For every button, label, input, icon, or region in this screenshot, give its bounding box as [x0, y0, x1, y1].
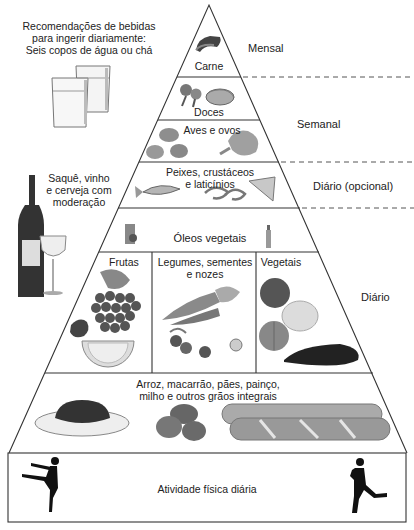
- tier-label-peixes-line-1: Peixes, crustáceos: [160, 166, 260, 178]
- tier-label-peixes: Peixes, crustáceos e laticínios: [160, 166, 260, 190]
- alcohol-note-line-1: Saquê, vinho: [40, 172, 118, 184]
- carrot-icon: [162, 286, 240, 325]
- alcohol-note: Saquê, vinho e cerveja com moderação: [40, 172, 118, 208]
- tier-label-vegetais: Vegetais: [258, 256, 304, 268]
- grapes-icon: [91, 269, 141, 333]
- candy-icon: [206, 89, 234, 105]
- water-glasses-icon: [52, 66, 110, 127]
- tier-label-frutas: Frutas: [104, 256, 144, 268]
- tier-label-aves: Aves e ovos: [174, 124, 250, 136]
- tier-label-graos-line-2: milho e outros grãos integrais: [128, 390, 288, 402]
- tier-label-atividade: Atividade física diária: [137, 483, 277, 495]
- tomato-icon: [260, 278, 290, 308]
- baguette-icon: [222, 404, 390, 440]
- tier-label-legumes-line-2: e nozes: [156, 268, 254, 280]
- runner-icon: [350, 458, 387, 513]
- tier-label-peixes-line-2: e laticínios: [160, 178, 260, 190]
- cauliflower-icon: [282, 301, 318, 331]
- strawberry-icon: [70, 320, 88, 338]
- tier-label-carne: Carne: [189, 60, 229, 72]
- beverages-note-line-3: Seis copos de água ou chá: [14, 44, 164, 56]
- alcohol-note-line-3: moderação: [40, 196, 118, 208]
- olive-oil-icon: [125, 224, 137, 244]
- potatoes-icon: [156, 404, 206, 441]
- meat-icon: [196, 36, 221, 52]
- tier-label-graos: Arroz, macarrão, pães, painço, milho e o…: [128, 378, 288, 402]
- oil-bottle-icon: [266, 225, 271, 248]
- radish-icon: [170, 329, 211, 358]
- orange-slice-icon: [82, 341, 134, 367]
- beverages-note: Recomendações de bebidas para ingerir di…: [14, 20, 164, 56]
- tier-label-legumes-line-1: Legumes, sementes: [156, 256, 254, 268]
- frequency-semanal: Semanal: [297, 118, 340, 131]
- beverages-note-line-2: para ingerir diariamente:: [14, 32, 164, 44]
- beverages-note-line-1: Recomendações de bebidas: [14, 20, 164, 32]
- walnut-icon: [230, 339, 242, 351]
- frequency-diario: Diário: [361, 291, 390, 304]
- tier-label-legumes: Legumes, sementes e nozes: [156, 256, 254, 280]
- onion-icon: [259, 321, 289, 351]
- tier-label-graos-line-1: Arroz, macarrão, pães, painço,: [128, 378, 288, 390]
- frequency-diario-opcional: Diário (opcional): [313, 180, 393, 193]
- dancer-icon: [22, 457, 59, 512]
- tier-label-oleos: Óleos vegetais: [168, 232, 252, 244]
- eggplant-icon: [284, 344, 359, 366]
- rice-plate-icon: [35, 400, 129, 436]
- tier-label-doces: Doces: [189, 106, 229, 118]
- lollipop-icon: [180, 84, 202, 107]
- alcohol-note-line-2: e cerveja com: [40, 184, 118, 196]
- frequency-mensal: Mensal: [248, 42, 283, 55]
